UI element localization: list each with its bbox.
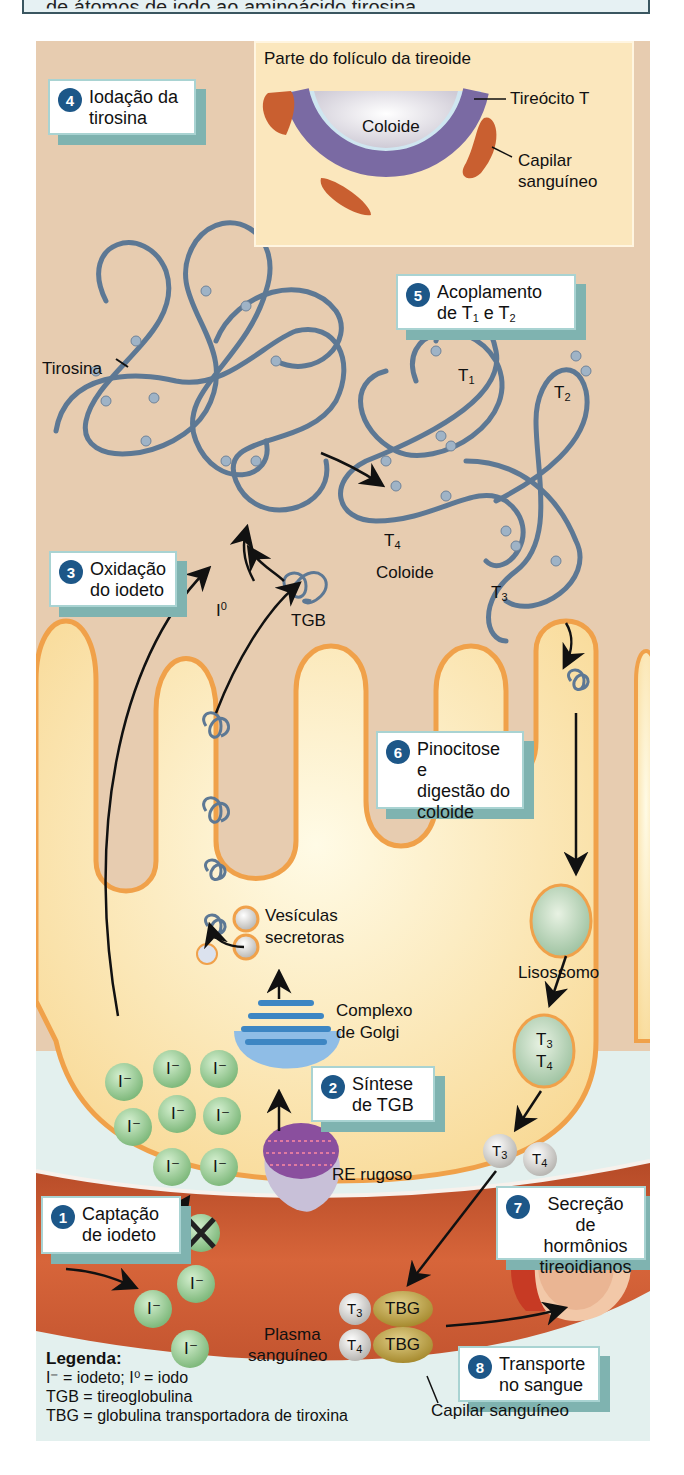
- t2-label: T2: [554, 383, 571, 407]
- t3-label: T3: [491, 583, 508, 607]
- legend-line-2: TGB = tireoglobulina: [46, 1387, 348, 1406]
- t1-label: T1: [458, 366, 475, 390]
- step-number-badge: 7: [506, 1195, 530, 1219]
- step-5-callout: 5 Acoplamentode T1 e T2: [396, 274, 576, 330]
- step-text: Pinocitose e digestão do coloide: [417, 739, 512, 823]
- tbg-label: TBG: [385, 1335, 420, 1355]
- tirosina-label: Tirosina: [42, 359, 102, 379]
- iodide-label: I⁻: [118, 1072, 132, 1092]
- inset-capilar-label-1: Capilar: [518, 151, 572, 171]
- step-text: Transporte no sangue: [499, 1354, 585, 1396]
- follicle-illustration: [256, 43, 636, 249]
- step-3-callout: 3 Oxidação do iodeto: [49, 551, 177, 607]
- step-number-badge: 4: [58, 88, 82, 112]
- legend-line-1: I⁻ = iodeto; I⁰ = iodo: [46, 1368, 348, 1387]
- iodide-label: I⁻: [166, 1059, 180, 1079]
- capilar-sanguineo-label: Capilar sanguíneo: [431, 1401, 569, 1421]
- iodide-label: I⁻: [127, 1117, 141, 1137]
- golgi-label-2: de Golgi: [336, 1023, 399, 1043]
- re-rugoso-label: RE rugoso: [332, 1165, 412, 1185]
- step-number-badge: 1: [51, 1205, 75, 1229]
- legend-line-3: TBG = globulina transportadora de tiroxi…: [46, 1406, 348, 1425]
- iodide-label: I⁻: [166, 1157, 180, 1177]
- vesiculas-label-1: Vesículas: [265, 906, 338, 926]
- coloide-label: Coloide: [376, 563, 434, 583]
- step-text: Síntese de TGB: [352, 1074, 414, 1116]
- diagram-panel: Parte do folículo da tireoide Coloide Ti…: [36, 41, 650, 1441]
- vesiculas-label-2: secretoras: [265, 928, 344, 948]
- legend-title: Legenda:: [46, 1349, 122, 1368]
- free-t3-label: T3: [492, 1141, 507, 1165]
- tgb-label: TGB: [291, 611, 326, 631]
- golgi-label-1: Complexo: [336, 1001, 413, 1021]
- iodine-label: I0: [216, 596, 227, 621]
- step-number-badge: 8: [468, 1355, 492, 1379]
- lisossomo-label: Lisossomo: [518, 963, 599, 983]
- plasma-label-1: Plasma: [264, 1325, 321, 1345]
- iodide-label: I⁻: [216, 1106, 230, 1126]
- step-text: Captação de iodeto: [82, 1204, 159, 1246]
- plasma-t4-label: T4: [347, 1335, 362, 1359]
- free-t4-label: T4: [532, 1149, 547, 1173]
- step-6-callout: 6 Pinocitose e digestão do coloide: [376, 731, 524, 809]
- inset-tireocito-label: Tireócito T: [510, 89, 589, 109]
- step-number-badge: 6: [386, 740, 410, 764]
- legend: Legenda: I⁻ = iodeto; I⁰ = iodo TGB = ti…: [46, 1349, 348, 1425]
- step-2-callout: 2 Síntese de TGB: [311, 1066, 435, 1122]
- iodide-label: I⁻: [213, 1157, 227, 1177]
- step-number-badge: 3: [59, 560, 83, 584]
- step-text: Acoplamentode T1 e T2: [437, 282, 542, 329]
- iodide-label: I⁻: [171, 1104, 185, 1124]
- step-8-callout: 8 Transporte no sangue: [458, 1346, 600, 1402]
- step-text: Iodação da tirosina: [89, 87, 178, 129]
- step-4-callout: 4 Iodação da tirosina: [48, 79, 196, 135]
- t4-label: T4: [384, 531, 401, 555]
- caption-text: de átomos de iodo ao aminoácido tirosina…: [46, 0, 422, 19]
- step-text: Secreção de hormônios tireoidianos: [537, 1194, 634, 1278]
- inset-coloide-label: Coloide: [362, 117, 420, 137]
- step-text: Oxidação do iodeto: [90, 559, 166, 601]
- step-number-badge: 5: [406, 283, 430, 307]
- caption-box-fragment: de átomos de iodo ao aminoácido tirosina…: [22, 0, 650, 14]
- iodide-label: I⁻: [213, 1059, 227, 1079]
- step-number-badge: 2: [321, 1075, 345, 1099]
- step-7-callout: 7 Secreção de hormônios tireoidianos: [496, 1186, 646, 1260]
- tbg-label: TBG: [385, 1299, 420, 1319]
- inset-capilar-label-2: sanguíneo: [518, 172, 597, 192]
- step-1-callout: 1 Captação de iodeto: [41, 1196, 181, 1254]
- lysosome-t3-t4-label: T3T4: [536, 1031, 553, 1075]
- inset-title: Parte do folículo da tireoide: [264, 49, 471, 69]
- follicle-inset: Parte do folículo da tireoide Coloide Ti…: [254, 41, 634, 247]
- iodide-label: I⁻: [190, 1274, 204, 1294]
- iodide-label: I⁻: [147, 1299, 161, 1319]
- plasma-t3-label: T3: [347, 1299, 362, 1323]
